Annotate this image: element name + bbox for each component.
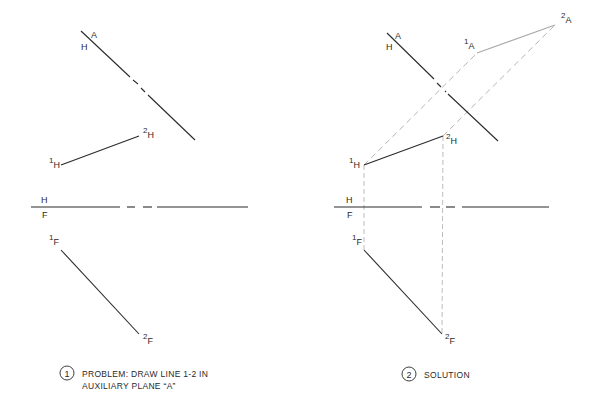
point-label-2a: 2A [561,11,571,25]
point-label-2f: 2F [445,332,455,346]
fold-label-a: A [91,30,97,40]
point-label: 1F [352,233,362,247]
point-label: 2A [561,11,571,25]
caption-line-1: PROBLEM: DRAW LINE 1-2 IN [82,369,208,379]
fold-label-h: H [346,195,353,205]
caption-problem: 1 PROBLEM: DRAW LINE 1-2 IN AUXILIARY PL… [60,366,208,391]
point-label-1h: 1H [49,156,60,170]
point-label-1f: 1F [352,233,362,247]
point-label-2f: 2F [143,332,153,346]
fold-label-f: F [347,210,353,220]
fold-line-segment [437,83,441,87]
fold-line-segment [81,31,130,77]
descriptive-geometry-diagram: A H H F 1H 2H 1F 2F 1 PROBLEM: DRAW LINE… [0,0,613,413]
line-1-2-front-view [364,250,442,334]
panel-problem: A H H F 1H 2H 1F 2F 1 PROBLEM: DRAW LINE… [31,30,248,391]
projector-2h-2f [442,136,443,334]
fold-line-segment [448,94,498,141]
point-label: 2F [445,332,455,346]
point-label-2h: 2H [143,126,154,140]
fold-line-segment [148,95,195,140]
fold-line-segment [133,80,138,84]
fold-line-h-a [81,31,195,140]
caption-line-1: SOLUTION [424,370,470,380]
point-label: 2H [143,126,154,140]
point-label: 2H [446,132,457,146]
line-1-2-front-view [61,250,139,334]
fold-label-h: H [386,42,393,52]
point-label-1a: 1A [464,37,474,51]
caption-number: 1 [65,369,70,379]
panel-solution: A H H F 1H 2H 1F 2F 1A 2A 2 SOLUTION [334,11,571,381]
fold-label-f: F [42,210,48,220]
projector-1h-1a [364,53,477,165]
point-label: 1H [349,156,360,170]
point-label: 1F [49,233,59,247]
point-label: 2F [143,332,153,346]
projector-2h-2a [443,25,555,136]
line-1-2-top-view [364,136,443,165]
point-label-2h: 2H [446,132,457,146]
fold-label-h: H [41,195,48,205]
caption-number: 2 [407,370,412,380]
line-1-2-top-view [61,136,139,165]
point-label: 1H [49,156,60,170]
point-label-1h: 1H [349,156,360,170]
point-label: 1A [464,37,474,51]
fold-line-segment [141,88,145,92]
fold-line-segment [445,91,446,92]
line-1-2-auxiliary-view [477,25,555,53]
caption-solution: 2 SOLUTION [402,367,470,381]
point-label-1f: 1F [49,233,59,247]
caption-line-2: AUXILIARY PLANE “A” [82,381,176,391]
fold-label-h: H [81,42,88,52]
fold-label-a: A [395,31,401,41]
